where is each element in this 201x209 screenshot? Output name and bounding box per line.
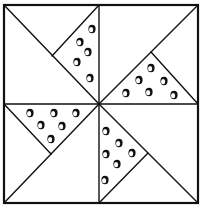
polka-dot [160,77,167,85]
polka-dot [122,89,129,97]
polka-dot [84,48,91,56]
polka-dot [47,135,54,143]
polka-dot [102,127,109,135]
polka-dot [147,64,154,72]
polka-dot [115,139,122,147]
polka-dot [50,109,57,117]
polka-dot [145,88,152,96]
polka-dot [76,38,83,46]
polka-dot [101,176,108,184]
polka-dot [113,160,120,168]
polka-dot [128,149,135,157]
polka-dot [102,150,109,158]
polka-dot [72,109,79,117]
quilt-block-diagram [0,0,201,209]
polka-dot [135,76,142,84]
polka-dot [86,74,93,82]
polka-dot [26,109,33,117]
polka-dot [88,25,95,33]
polka-dot [73,58,80,66]
polka-dot [37,121,44,129]
polka-dot [170,91,177,99]
polka-dot [58,122,65,130]
